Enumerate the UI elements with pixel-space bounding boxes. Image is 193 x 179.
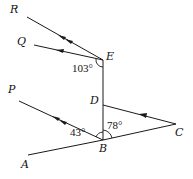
angle-label-B-right: 78° <box>107 120 122 131</box>
segment-EQ <box>34 45 103 60</box>
point-label-E: E <box>106 51 114 62</box>
angle-arc-B-right <box>103 130 112 138</box>
angle-label-E: 103° <box>72 63 93 74</box>
arrow-icon <box>52 116 60 121</box>
arrow-icon <box>139 113 147 118</box>
point-label-B: B <box>99 143 107 154</box>
angle-arc-B-left <box>96 132 103 137</box>
point-label-C: C <box>175 127 183 138</box>
point-label-Q: Q <box>17 36 26 47</box>
geometry-diagram: R Q E P D B A C 103° 43° 78° <box>0 0 193 179</box>
segment-BA <box>28 140 103 155</box>
arrow-icon <box>65 39 73 44</box>
point-label-D: D <box>90 95 99 106</box>
arrow-icon <box>58 35 66 40</box>
angle-label-B-left: 43° <box>70 127 85 138</box>
point-label-P: P <box>8 84 15 95</box>
point-label-A: A <box>21 159 29 170</box>
point-label-R: R <box>10 4 18 15</box>
diagram-lines <box>0 0 193 179</box>
arrow-icon <box>59 120 67 125</box>
